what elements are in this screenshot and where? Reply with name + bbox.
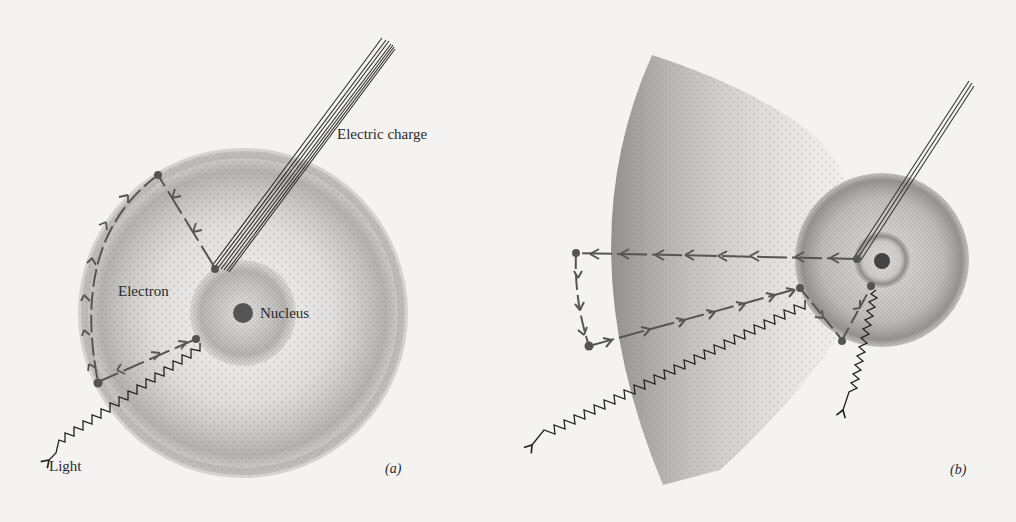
electron-dot-b2 (572, 249, 580, 257)
electron-dot-b4 (796, 284, 804, 292)
electron-dot-a3 (94, 379, 103, 388)
electron-dot-b5 (838, 337, 846, 345)
down-path-b (574, 253, 589, 346)
electron-dot-a2 (154, 171, 162, 179)
panel-b (532, 55, 974, 485)
nucleus-a (233, 303, 253, 323)
label-electron: Electron (118, 283, 169, 300)
panel-label-b: (b) (950, 462, 966, 478)
label-light: Light (49, 458, 82, 475)
electron-dot-a1 (211, 265, 219, 273)
electron-dot-b3 (585, 342, 594, 351)
electron-dot-a4 (192, 335, 200, 343)
panel-label-a: (a) (385, 461, 401, 477)
atomic-excitation-diagram (0, 0, 1016, 522)
electron-dot-b6 (867, 282, 875, 290)
label-nucleus: Nucleus (260, 305, 309, 322)
nucleus-b (874, 253, 890, 269)
panel-a (49, 38, 405, 475)
electron-dot-b1 (853, 255, 861, 263)
label-electric-charge: Electric charge (337, 126, 427, 143)
